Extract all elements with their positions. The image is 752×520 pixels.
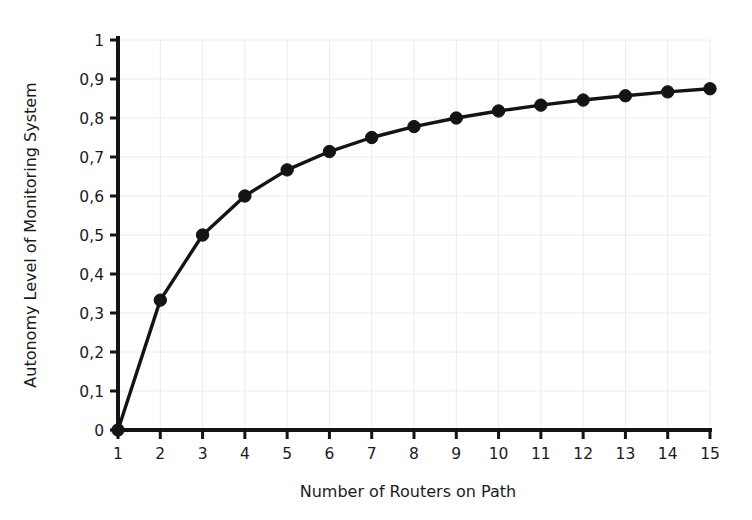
x-tick-label: 8 — [409, 445, 419, 463]
data-point — [154, 294, 166, 306]
data-point — [239, 190, 251, 202]
data-point — [112, 424, 124, 436]
x-tick-label: 5 — [282, 445, 292, 463]
x-tick-label: 11 — [531, 445, 551, 463]
data-point — [366, 131, 378, 143]
x-tick-label: 3 — [198, 445, 208, 463]
data-point — [662, 86, 674, 98]
x-tick-label: 2 — [155, 445, 165, 463]
data-point — [408, 120, 420, 132]
x-tick-label: 4 — [240, 445, 250, 463]
y-tick-label: 0,2 — [79, 344, 104, 362]
y-tick-label: 0,9 — [79, 71, 104, 89]
x-tick-label: 14 — [658, 445, 678, 463]
chart-page: 00,10,20,30,40,50,60,70,80,91 1234567891… — [0, 0, 752, 520]
y-tick-label: 0,3 — [79, 305, 104, 323]
x-tick-label: 9 — [451, 445, 461, 463]
y-tick-label: 0,7 — [79, 149, 104, 167]
y-tick-label: 1 — [94, 32, 104, 50]
data-point — [196, 229, 208, 241]
x-axis-title: Number of Routers on Path — [300, 482, 516, 501]
x-tick-label: 1 — [113, 445, 123, 463]
y-axis-title: Autonomy Level of Monitoring System — [21, 82, 40, 387]
y-tick-label: 0 — [94, 422, 104, 440]
x-axis-tick-labels: 123456789101112131415 — [113, 445, 720, 463]
y-tick-label: 0,8 — [79, 110, 104, 128]
data-point — [492, 105, 504, 117]
x-tick-label: 6 — [324, 445, 334, 463]
x-tick-label: 13 — [616, 445, 636, 463]
data-point — [704, 83, 716, 95]
x-tick-label: 10 — [489, 445, 509, 463]
data-point — [535, 99, 547, 111]
x-tick-label: 12 — [573, 445, 593, 463]
x-tick-label: 15 — [700, 445, 720, 463]
data-point — [450, 112, 462, 124]
data-point — [323, 145, 335, 157]
y-tick-label: 0,1 — [79, 383, 104, 401]
y-tick-label: 0,5 — [79, 227, 104, 245]
autonomy-level-line-chart: 00,10,20,30,40,50,60,70,80,91 1234567891… — [0, 0, 752, 520]
data-point — [619, 90, 631, 102]
x-tick-label: 7 — [367, 445, 377, 463]
y-tick-label: 0,4 — [79, 266, 104, 284]
data-point — [281, 164, 293, 176]
data-point — [577, 94, 589, 106]
y-tick-label: 0,6 — [79, 188, 104, 206]
